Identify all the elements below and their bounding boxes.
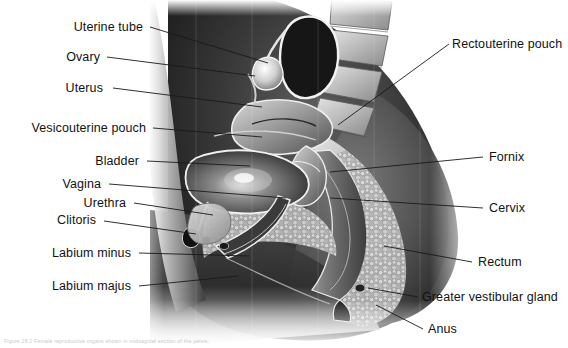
label-greater-vestibular-gland: Greater vestibular gland	[422, 290, 558, 304]
label-ovary: Ovary	[0, 50, 100, 64]
figure-caption: Figure 28.2 Female reproductive organs s…	[4, 338, 564, 345]
anatomy-figure: Uterine tubeOvaryUterusVesicouterine pou…	[0, 0, 568, 348]
label-vesicouterine-pouch: Vesicouterine pouch	[0, 121, 146, 135]
label-rectouterine-pouch: Rectouterine pouch	[452, 37, 562, 51]
label-vagina: Vagina	[0, 177, 101, 191]
label-cervix: Cervix	[489, 201, 525, 215]
label-labium-minus: Labium minus	[0, 246, 131, 260]
label-bladder: Bladder	[0, 154, 139, 168]
label-uterus: Uterus	[0, 81, 103, 95]
label-urethra: Urethra	[0, 196, 126, 210]
label-fornix: Fornix	[489, 150, 524, 164]
label-anus: Anus	[428, 322, 457, 336]
label-uterine-tube: Uterine tube	[0, 20, 143, 34]
label-clitoris: Clitoris	[0, 213, 96, 227]
label-rectum: Rectum	[478, 255, 522, 269]
label-labium-majus: Labium majus	[0, 279, 131, 293]
